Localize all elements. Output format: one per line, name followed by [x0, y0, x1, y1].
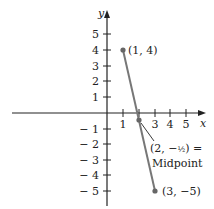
y-tick-label: 4 [92, 44, 99, 57]
y-tick-label: − 5 [79, 185, 99, 198]
x-tick-label: 4 [167, 118, 174, 131]
y-tick-label: 1 [92, 91, 99, 104]
y-tick-label: − 1 [79, 123, 99, 136]
x-tick-label: 5 [183, 118, 190, 131]
y-tick-label: − 3 [79, 154, 99, 167]
point-3-neg5 [152, 188, 157, 193]
coordinate-plot: 5 4 3 2 1 − 1 − 2 − 3 − 4 − 5 1 3 4 5 x … [0, 0, 214, 209]
point-1-4 [120, 47, 125, 52]
x-axis-arrow-icon [198, 110, 206, 116]
point-label-1-4: (1, 4) [128, 44, 158, 57]
y-tick-label: 3 [92, 60, 99, 73]
y-tick-label: − 2 [79, 138, 99, 151]
y-axis-arrow-icon [104, 10, 110, 18]
midpoint [136, 117, 141, 122]
y-tick-label: 5 [92, 28, 99, 41]
x-tick-label: 1 [120, 118, 127, 131]
y-axis-label: y [97, 7, 105, 20]
point-label-3-neg5: (3, −5) [162, 185, 201, 198]
midpoint-label-coords: (2, −½) = [150, 142, 202, 155]
x-tick-label: 3 [152, 118, 159, 131]
y-tick-label: 2 [92, 75, 99, 88]
y-tick-label: − 4 [79, 169, 99, 182]
midpoint-label-text: Midpoint [152, 157, 203, 170]
x-axis-label: x [200, 117, 207, 130]
